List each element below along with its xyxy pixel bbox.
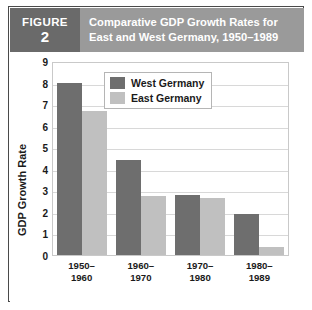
y-axis-tick-7: 7 bbox=[28, 100, 48, 111]
bar-group-1 bbox=[53, 63, 112, 255]
bar-group-4 bbox=[229, 63, 288, 255]
y-axis-tick-4: 4 bbox=[28, 164, 48, 175]
y-axis-tick-3: 3 bbox=[28, 186, 48, 197]
bar-west-germany-4 bbox=[234, 214, 259, 255]
figure-number-badge: FIGURE 2 bbox=[10, 8, 80, 52]
figure-badge-number: 2 bbox=[41, 29, 49, 45]
y-axis-tick-labels: 9876543210 bbox=[28, 62, 48, 256]
y-axis-tick-2: 2 bbox=[28, 207, 48, 218]
y-axis-tick-1: 1 bbox=[28, 229, 48, 240]
bar-west-germany-3 bbox=[175, 195, 200, 255]
bar-east-germany-4 bbox=[259, 247, 284, 255]
x-axis-tick-line: 1980– bbox=[230, 260, 289, 272]
legend-item-west-germany: West Germany bbox=[110, 77, 204, 89]
figure-frame: FIGURE 2 Comparative GDP Growth Rates fo… bbox=[8, 6, 304, 302]
legend-label-west-germany: West Germany bbox=[131, 77, 204, 89]
legend-swatch-east-germany bbox=[110, 92, 125, 104]
y-axis-tick-5: 5 bbox=[28, 143, 48, 154]
x-axis-tick-line: 1970– bbox=[171, 260, 230, 272]
x-axis-tick-line: 1960– bbox=[111, 260, 170, 272]
x-axis-tick-3: 1970–1980 bbox=[171, 260, 230, 284]
x-axis-tick-4: 1980–1989 bbox=[230, 260, 289, 284]
figure-badge-word: FIGURE bbox=[22, 16, 68, 28]
legend-swatch-west-germany bbox=[110, 77, 125, 89]
x-axis-tick-line: 1970 bbox=[111, 272, 170, 284]
chart-body: GDP Growth Rate 9876543210 West Germany … bbox=[10, 52, 304, 302]
figure-title-line-1: Comparative GDP Growth Rates for bbox=[89, 15, 298, 30]
chart-legend: West Germany East Germany bbox=[104, 72, 212, 109]
x-axis-tick-line: 1950– bbox=[52, 260, 111, 272]
bar-west-germany-1 bbox=[57, 83, 82, 255]
x-axis-tick-labels: 1950–19601960–19701970–19801980–1989 bbox=[52, 260, 289, 284]
x-axis-tick-line: 1980 bbox=[171, 272, 230, 284]
figure-title-line-2: East and West Germany, 1950–1989 bbox=[89, 30, 298, 45]
y-axis-tick-0: 0 bbox=[28, 251, 48, 262]
x-axis-tick-2: 1960–1970 bbox=[111, 260, 170, 284]
x-axis-tick-line: 1989 bbox=[230, 272, 289, 284]
figure-container: FIGURE 2 Comparative GDP Growth Rates fo… bbox=[0, 0, 312, 310]
legend-label-east-germany: East Germany bbox=[131, 92, 202, 104]
figure-header: FIGURE 2 Comparative GDP Growth Rates fo… bbox=[10, 8, 304, 52]
x-axis-tick-1: 1950–1960 bbox=[52, 260, 111, 284]
legend-item-east-germany: East Germany bbox=[110, 92, 204, 104]
y-axis-tick-6: 6 bbox=[28, 121, 48, 132]
bar-east-germany-1 bbox=[82, 111, 107, 255]
figure-title: Comparative GDP Growth Rates for East an… bbox=[80, 8, 304, 52]
bar-west-germany-2 bbox=[116, 160, 141, 255]
y-axis-tick-9: 9 bbox=[28, 57, 48, 68]
bar-east-germany-3 bbox=[200, 198, 225, 255]
bar-east-germany-2 bbox=[141, 196, 166, 255]
y-axis-tick-8: 8 bbox=[28, 78, 48, 89]
x-axis-tick-line: 1960 bbox=[52, 272, 111, 284]
